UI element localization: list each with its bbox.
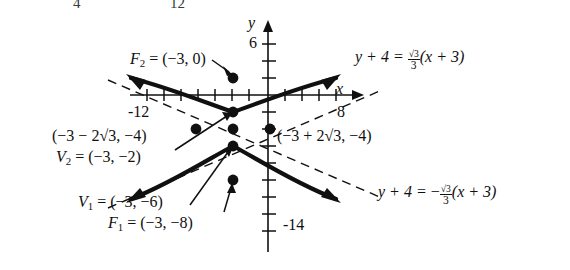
label-vertex-upper-value: = (−3, −2)	[71, 148, 141, 165]
arrowhead-lower-right	[321, 188, 341, 203]
x-tick-label-8: 8	[337, 103, 345, 121]
asymptote-positive-fraction: √33	[408, 49, 420, 72]
asymptote-negative-sign: −	[431, 183, 440, 200]
asymptote-positive-lhs: y + 4 =	[355, 48, 408, 65]
label-vertex-lower-name: V	[78, 193, 88, 210]
asymptote-negative-lhs: y + 4 =	[378, 183, 431, 200]
y-axis-ticks	[262, 44, 276, 231]
leader-arrowhead-f2	[223, 66, 233, 76]
label-asymptote-positive: y + 4 = √33(x + 3)	[355, 48, 464, 71]
label-vertex-upper-name: V	[56, 148, 66, 165]
asymptote-positive-denominator: 3	[408, 60, 420, 72]
y-tick-label-neg14: -14	[283, 216, 304, 234]
label-focus-lower-value: = (−3, −8)	[123, 214, 193, 231]
label-focus-upper: F2 = (−3, 0)	[130, 50, 206, 69]
y-tick-label-6: 6	[249, 34, 257, 52]
label-focus-upper-name: F	[130, 50, 140, 67]
label-focus-lower: F1 = (−3, −8)	[108, 214, 193, 233]
label-point-right: (−3 + 2√3, −4)	[277, 127, 372, 145]
label-asymptote-negative: y + 4 = −√33(x + 3)	[378, 183, 496, 206]
y-axis-arrow	[263, 20, 273, 32]
label-focus-lower-name: F	[108, 214, 118, 231]
y-axis-label: y	[248, 14, 255, 32]
leader-arrows	[175, 60, 231, 212]
asymptote-negative-fraction: √33	[440, 184, 452, 207]
label-focus-upper-value: = (−3, 0)	[145, 50, 206, 67]
point-center-left	[191, 124, 202, 135]
asymptote-positive-rhs: (x + 3)	[420, 48, 465, 65]
asymptote-negative-rhs: (x + 3)	[452, 183, 497, 200]
leader-v2	[175, 116, 227, 150]
label-vertex-upper: V2 = (−3, −2)	[56, 148, 141, 167]
point-focus-lower	[228, 175, 239, 186]
label-vertex-lower: V1 = (−3, −6)	[78, 193, 163, 212]
point-center	[228, 124, 239, 135]
arrowhead-upper-left	[126, 74, 146, 90]
x-tick-label-neg12: -12	[128, 103, 149, 121]
point-center-right	[265, 124, 276, 135]
asymptote-negative-denominator: 3	[440, 195, 452, 207]
label-point-left: (−3 − 2√3, −4)	[52, 127, 147, 145]
x-axis-label: x	[336, 80, 343, 98]
label-vertex-lower-value: = (−3, −6)	[93, 193, 163, 210]
